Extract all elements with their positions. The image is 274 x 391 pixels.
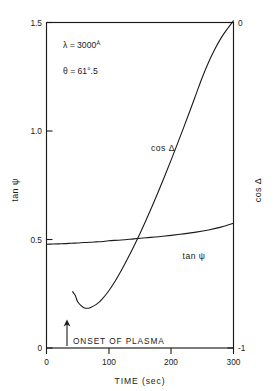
wavelength-annotation: λ = 3000Å <box>63 39 101 50</box>
parameter-annotations: λ = 3000Å θ = 61°.5 <box>63 39 101 76</box>
ytick-label-0: 0 <box>37 343 42 353</box>
xtick-label-300: 300 <box>227 357 241 367</box>
y2tick-label-0: 0 <box>238 18 243 28</box>
x-axis-ticks <box>47 348 234 354</box>
left-axis-ticks <box>47 23 53 349</box>
onset-of-plasma-label: ONSET OF PLASMA <box>73 336 165 346</box>
ytick-label-0-5: 0.5 <box>30 235 42 245</box>
series-group <box>47 21 234 308</box>
tan-psi-curve-label: tan ψ <box>183 251 206 261</box>
y2tick-label-minus1: -1 <box>238 343 246 353</box>
figure-container: 0 0.5 1.0 1.5 0 -1 0 100 200 300 TIME (s… <box>0 0 274 391</box>
y2-axis-title: cos Δ <box>253 178 263 203</box>
y-axis-title: tan ψ <box>10 178 20 201</box>
ellipsometry-line-chart: 0 0.5 1.0 1.5 0 -1 0 100 200 300 TIME (s… <box>0 0 274 391</box>
cos-delta-curve-label: cos Δ <box>151 143 175 153</box>
xtick-label-0: 0 <box>44 357 49 367</box>
onset-of-plasma-annotation: ONSET OF PLASMA <box>64 320 165 347</box>
xtick-label-200: 200 <box>164 357 178 367</box>
angle-annotation: θ = 61°.5 <box>63 66 98 76</box>
x-axis-title: TIME (sec) <box>114 376 165 386</box>
ytick-label-1-0: 1.0 <box>30 126 42 136</box>
xtick-label-100: 100 <box>102 357 116 367</box>
ytick-label-1-5: 1.5 <box>30 18 42 28</box>
cos-delta-curve <box>73 21 234 308</box>
right-axis-ticks <box>228 23 234 349</box>
